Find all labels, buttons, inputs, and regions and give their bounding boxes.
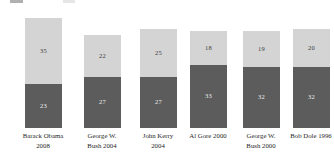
bar-value-label-top-5: 19 <box>258 46 265 53</box>
bar-value-label-top-3: 25 <box>155 50 162 57</box>
bar-value-label-bottom-5: 32 <box>258 94 265 101</box>
bar-stack-2: 22 27 <box>84 35 121 128</box>
bar-group-2: 22 27 <box>84 14 121 128</box>
bar-stack-4: 18 33 <box>190 31 227 128</box>
x-axis-labels: Barack Obama 2008 George W. Bush 2004 Jo… <box>0 131 334 161</box>
bar-value-label-top-1: 35 <box>40 48 47 55</box>
bar-value-label-bottom-4: 33 <box>205 93 212 100</box>
bar-group-5: 19 32 <box>243 14 280 128</box>
bar-group-6: 20 32 <box>293 14 330 128</box>
bar-group-3: 25 27 <box>140 14 177 128</box>
bar-stack-5: 19 32 <box>243 31 280 128</box>
x-axis-label-1: Barack Obama 2008 <box>12 131 74 150</box>
bar-stack-1: 35 23 <box>25 18 62 128</box>
bar-segment-top-1: 35 <box>25 18 62 85</box>
bar-segment-bottom-6: 32 <box>293 67 330 128</box>
legend-swatch-dark-cropped <box>10 0 23 3</box>
bar-segment-bottom-4: 33 <box>190 65 227 128</box>
x-axis-label-6: Bob Dole 1996 <box>280 131 334 141</box>
bar-stack-3: 25 27 <box>140 29 177 128</box>
bar-stack-6: 20 32 <box>293 29 330 128</box>
x-axis-label-2-line2: Bush 2004 <box>71 141 133 151</box>
bar-value-label-top-4: 18 <box>205 45 212 52</box>
x-axis-label-2: George W. Bush 2004 <box>71 131 133 150</box>
bar-segment-top-5: 19 <box>243 31 280 67</box>
x-axis-label-2-line1: George W. <box>71 131 133 141</box>
x-axis-label-1-line1: Barack Obama <box>12 131 74 141</box>
bar-segment-top-2: 22 <box>84 35 121 77</box>
bar-value-label-bottom-1: 23 <box>40 103 47 110</box>
bar-value-label-top-2: 22 <box>99 53 106 60</box>
bar-value-label-bottom-6: 32 <box>308 94 315 101</box>
bar-segment-top-4: 18 <box>190 31 227 65</box>
x-axis-label-6-line1: Bob Dole 1996 <box>280 131 334 141</box>
bar-segment-top-6: 20 <box>293 29 330 67</box>
stacked-bar-chart: 35 23 22 27 25 <box>0 0 334 164</box>
plot-area: 35 23 22 27 25 <box>0 14 334 128</box>
bar-group-4: 18 33 <box>190 14 227 128</box>
x-axis-label-1-line2: 2008 <box>12 141 74 151</box>
bar-segment-bottom-5: 32 <box>243 67 280 128</box>
x-axis-label-5-line2: Bush 2000 <box>230 141 292 151</box>
bar-segment-bottom-1: 23 <box>25 84 62 128</box>
bar-segment-bottom-2: 27 <box>84 77 121 128</box>
bar-segment-bottom-3: 27 <box>140 77 177 128</box>
bar-value-label-bottom-2: 27 <box>99 99 106 106</box>
legend-swatch-light-cropped <box>63 0 75 3</box>
bar-value-label-top-6: 20 <box>308 45 315 52</box>
bar-segment-top-3: 25 <box>140 29 177 77</box>
bar-group-1: 35 23 <box>25 14 62 128</box>
bar-value-label-bottom-3: 27 <box>155 99 162 106</box>
x-axis-label-3-line2: 2004 <box>127 141 189 151</box>
